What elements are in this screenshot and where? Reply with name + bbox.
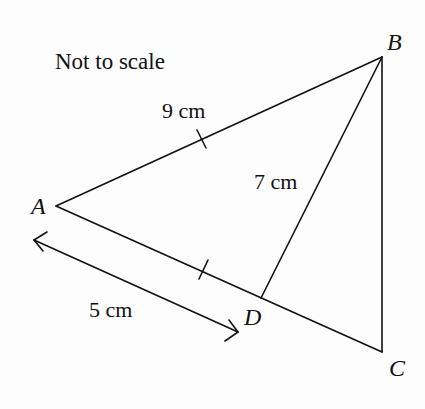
length-label-bd: 7 cm [254,171,297,193]
length-label-ad: 5 cm [89,299,132,321]
vertex-label-d: D [244,305,261,329]
not-to-scale-note: Not to scale [55,50,165,73]
tick-mark-ab [197,130,206,148]
vertex-label-a: A [31,194,46,218]
dimension-arrow-ad [34,232,238,341]
segment-ab [56,57,382,206]
segment-ac [56,206,382,352]
vertex-label-b: B [387,30,402,54]
geometry-diagram: Not to scale B A C D 9 cm 7 cm 5 cm [0,0,425,409]
length-label-ab: 9 cm [162,100,205,122]
tick-mark-ad [199,260,208,279]
vertex-label-c: C [389,356,405,380]
